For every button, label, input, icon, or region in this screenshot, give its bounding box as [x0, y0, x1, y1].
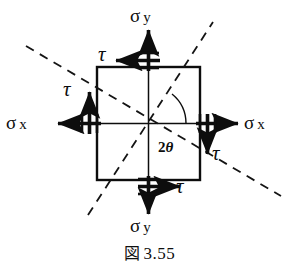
figure-caption: 図3.55: [0, 240, 299, 264]
angle-2theta-label: 2θ: [158, 140, 173, 155]
caption-number: 3.55: [143, 244, 175, 263]
tau-right-label: τ: [212, 143, 220, 164]
sigma-x-left-label: σx: [6, 113, 27, 132]
tau-top-label: τ: [98, 44, 106, 65]
sigma-x-right-label: σx: [244, 113, 265, 132]
tau-left-label: τ: [63, 79, 71, 100]
angle-arc-2theta: [172, 94, 186, 124]
sigma-y-bottom-label: σy: [130, 216, 151, 235]
caption-symbol: 図: [124, 244, 144, 263]
sigma-y-top-label: σy: [130, 6, 151, 25]
stress-element-figure: σy σy σx σx τ τ τ τ 2θ 図3.55: [0, 0, 299, 274]
tau-bottom-label: τ: [176, 176, 184, 197]
